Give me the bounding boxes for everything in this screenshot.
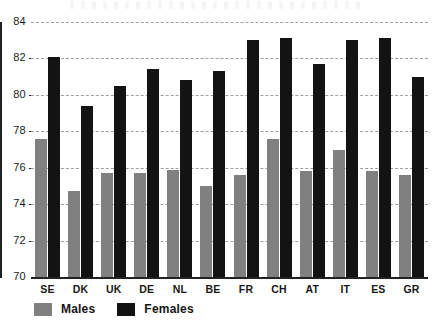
y-tick-label: 82 bbox=[1, 52, 26, 63]
y-tick-label: 80 bbox=[1, 89, 26, 100]
x-tick-label-gr: GR bbox=[391, 283, 431, 295]
legend-label-females: Females bbox=[144, 303, 193, 316]
bar-males-uk bbox=[101, 173, 113, 277]
chart-legend: MalesFemales bbox=[34, 303, 194, 316]
bar-females-se bbox=[48, 57, 60, 277]
bar-females-de bbox=[147, 69, 159, 277]
bar-males-ch bbox=[267, 139, 279, 277]
bar-males-gr bbox=[399, 175, 411, 277]
bar-males-se bbox=[35, 139, 47, 277]
bar-females-dk bbox=[81, 106, 93, 277]
bar-males-it bbox=[333, 150, 345, 278]
y-tick-label: 70 bbox=[1, 271, 26, 282]
y-tick-label: 78 bbox=[1, 125, 26, 136]
bar-males-be bbox=[200, 186, 212, 277]
legend-item-males: Males bbox=[34, 303, 95, 316]
scan-artifact-strip bbox=[70, 1, 360, 9]
bar-females-it bbox=[346, 40, 358, 277]
plot-area bbox=[31, 22, 428, 277]
x-axis-line bbox=[31, 277, 428, 279]
bar-males-at bbox=[300, 171, 312, 277]
y-tick-label: 74 bbox=[1, 198, 26, 209]
y-tick-label: 72 bbox=[1, 235, 26, 246]
bar-males-dk bbox=[68, 191, 80, 277]
bar-females-es bbox=[379, 38, 391, 277]
bar-males-de bbox=[134, 173, 146, 277]
bar-females-nl bbox=[180, 80, 192, 277]
bar-males-nl bbox=[167, 170, 179, 277]
legend-item-females: Females bbox=[117, 303, 193, 316]
bar-males-fr bbox=[234, 175, 246, 277]
y-tick-label: 76 bbox=[1, 162, 26, 173]
bar-females-be bbox=[213, 71, 225, 277]
legend-swatch-males bbox=[34, 303, 52, 316]
bar-females-uk bbox=[114, 86, 126, 277]
bar-females-at bbox=[313, 64, 325, 277]
bar-females-gr bbox=[412, 77, 424, 277]
bar-females-fr bbox=[247, 40, 259, 277]
bar-chart-figure: 8482807876747270 SEDKUKDENLBEFRCHATITESG… bbox=[0, 0, 434, 330]
bar-males-es bbox=[366, 171, 378, 277]
y-tick-label: 84 bbox=[1, 16, 26, 27]
legend-label-males: Males bbox=[61, 303, 95, 316]
legend-swatch-females bbox=[117, 303, 135, 316]
bar-females-ch bbox=[280, 38, 292, 277]
